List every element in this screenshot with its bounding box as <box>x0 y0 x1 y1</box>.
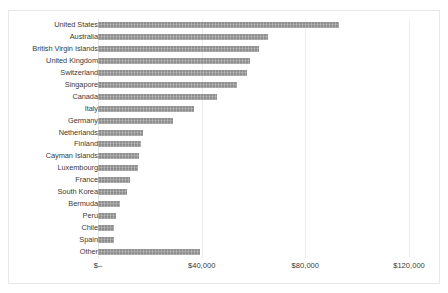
bar <box>98 141 141 147</box>
bar <box>98 58 250 64</box>
category-label: Peru <box>19 212 98 220</box>
category-label: Australia <box>19 33 98 41</box>
gridline <box>305 19 306 258</box>
category-label: France <box>19 176 98 184</box>
bar <box>98 82 237 88</box>
category-axis: United StatesAustraliaBritish Virgin Isl… <box>19 19 98 258</box>
category-label: Other <box>19 248 98 256</box>
bar <box>98 201 120 207</box>
bar <box>98 46 259 52</box>
gridline <box>98 19 99 258</box>
category-label: Germany <box>19 117 98 125</box>
bar <box>98 237 114 243</box>
category-label: British Virgin Islands <box>19 45 98 53</box>
bar <box>98 213 116 219</box>
bar <box>98 94 217 100</box>
value-tick-label: $120,000 <box>393 261 425 271</box>
chart-frame: United StatesAustraliaBritish Virgin Isl… <box>8 10 440 284</box>
bar <box>98 153 139 159</box>
category-label: Netherlands <box>19 129 98 137</box>
category-label: Finland <box>19 140 98 148</box>
gridline <box>202 19 203 258</box>
bar <box>98 225 114 231</box>
category-label: South Korea <box>19 188 98 196</box>
bar <box>98 70 247 76</box>
category-label: Luxembourg <box>19 164 98 172</box>
category-label: Italy <box>19 105 98 113</box>
bar <box>98 22 339 28</box>
value-axis: $–$40,000$80,000$120,000 <box>98 261 409 275</box>
category-label: Chile <box>19 224 98 232</box>
bar <box>98 118 173 124</box>
bar <box>98 106 194 112</box>
bar <box>98 189 127 195</box>
value-tick-label: $80,000 <box>292 261 319 271</box>
plot-area <box>98 19 409 258</box>
value-tick-label: $40,000 <box>188 261 215 271</box>
bar <box>98 249 200 255</box>
category-label: Cayman Islands <box>19 152 98 160</box>
value-tick-label: $– <box>94 261 102 271</box>
gridline <box>409 19 410 258</box>
category-label: Switzerland <box>19 69 98 77</box>
category-label: Spain <box>19 236 98 244</box>
category-label: United States <box>19 21 98 29</box>
bar <box>98 177 130 183</box>
category-label: Canada <box>19 93 98 101</box>
category-label: United Kingdom <box>19 57 98 65</box>
category-label: Singapore <box>19 81 98 89</box>
bar <box>98 130 143 136</box>
category-label: Bermuda <box>19 200 98 208</box>
bar <box>98 165 138 171</box>
bar <box>98 34 268 40</box>
chart-plot-wrapper: United StatesAustraliaBritish Virgin Isl… <box>9 11 439 283</box>
